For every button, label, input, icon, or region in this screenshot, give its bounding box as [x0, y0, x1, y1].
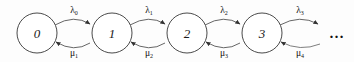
rate-label-mu-2: μ2 [145, 48, 153, 59]
state-label-1: 1 [109, 26, 116, 41]
birth-death-process-diagram: 0 1 2 3 λ0 λ1 λ2 [0, 0, 354, 62]
state-label-0: 0 [34, 26, 41, 41]
state-label-2: 2 [184, 26, 191, 41]
rate-label-lambda-2: λ2 [220, 5, 228, 16]
backward-arc-1-to-0 [56, 42, 90, 48]
backward-arc-next-to-3 [281, 42, 320, 48]
state-node-3[interactable]: 3 [242, 13, 282, 53]
rate-subscript-lambda-3: 3 [301, 10, 304, 16]
rate-label-lambda-1: λ1 [145, 5, 153, 16]
rate-subscript-mu-3: 3 [225, 53, 228, 59]
rate-label-mu-3: μ3 [220, 48, 228, 59]
rate-label-mu-4: μ4 [296, 48, 304, 59]
rate-subscript-mu-2: 2 [150, 53, 153, 59]
state-label-3: 3 [258, 26, 266, 41]
forward-arc-3-to-next [280, 19, 318, 25]
state-node-0[interactable]: 0 [17, 13, 57, 53]
rate-subscript-lambda-0: 0 [75, 10, 78, 16]
state-node-2[interactable]: 2 [167, 13, 207, 53]
rate-subscript-lambda-1: 1 [150, 10, 153, 16]
rate-subscript-mu-1: 1 [75, 53, 78, 59]
forward-arc-1-to-2 [130, 19, 165, 25]
continuation-ellipsis: … [329, 25, 345, 41]
forward-arc-0-to-1 [55, 19, 90, 25]
backward-arc-2-to-1 [131, 42, 165, 48]
diagram-canvas: 0 1 2 3 λ0 λ1 λ2 [0, 0, 354, 62]
rate-subscript-lambda-2: 2 [225, 10, 228, 16]
rate-label-mu-1: μ1 [70, 48, 78, 59]
state-node-1[interactable]: 1 [92, 13, 132, 53]
rate-subscript-mu-4: 4 [301, 53, 304, 59]
forward-arc-2-to-3 [205, 19, 240, 25]
rate-label-lambda-3: λ3 [296, 5, 304, 16]
rate-label-lambda-0: λ0 [70, 5, 78, 16]
backward-arc-3-to-2 [206, 42, 240, 48]
